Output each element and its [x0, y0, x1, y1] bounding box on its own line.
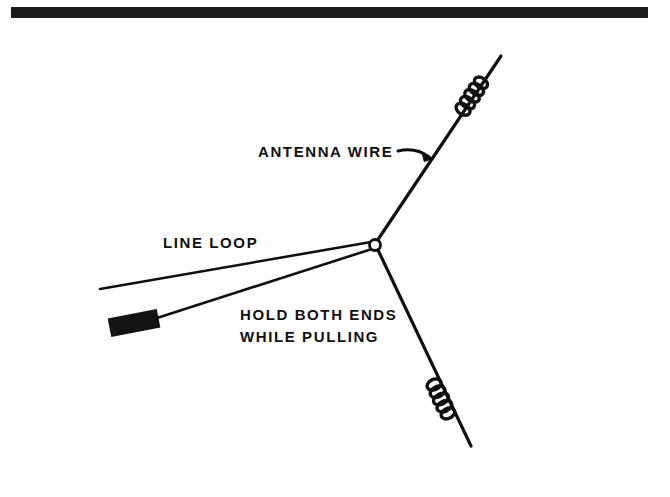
antenna-line-loop-diagram: ANTENNA WIRE LINE LOOP HOLD BOTH ENDS WH… — [0, 0, 670, 497]
horizontal-rule-bar — [11, 7, 648, 18]
diagram-page: ANTENNA WIRE LINE LOOP HOLD BOTH ENDS WH… — [0, 0, 670, 497]
line-loop-knot — [370, 240, 381, 251]
label-line-loop: LINE LOOP — [163, 234, 258, 251]
label-hold-both-ends: HOLD BOTH ENDS — [240, 306, 397, 323]
label-antenna-wire: ANTENNA WIRE — [258, 143, 393, 160]
label-while-pulling: WHILE PULLING — [240, 328, 379, 345]
